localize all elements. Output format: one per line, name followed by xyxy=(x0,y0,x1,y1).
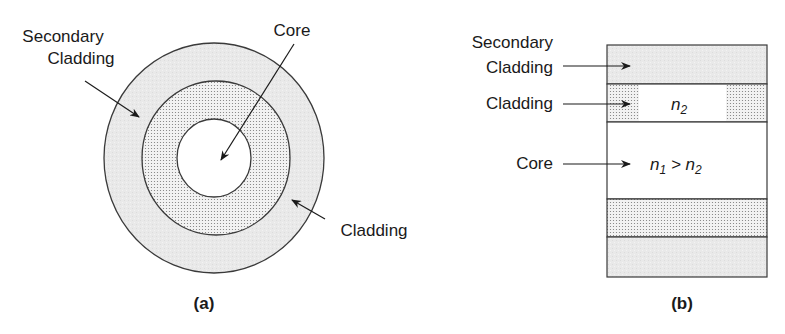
b-cladding-label: Cladding xyxy=(486,94,553,113)
optical-fiber-structure-figure: Secondary Cladding Core Cladding (a) n2 xyxy=(0,0,785,334)
b-secondary-cladding-label-line1: Secondary xyxy=(472,33,554,52)
panel-a-caption: (a) xyxy=(194,294,215,313)
b-core-label: Core xyxy=(516,154,553,173)
core-label: Core xyxy=(274,21,311,40)
core-index-label: n1 > n2 xyxy=(650,155,702,177)
cladding-bottom-band xyxy=(607,199,767,237)
panel-b-longitudinal-section: n2 n1 > n2 Secondary Cladding Cladding C… xyxy=(472,33,767,313)
cladding-top-right-stipple xyxy=(726,85,766,121)
panel-a-cross-section: Secondary Cladding Core Cladding (a) xyxy=(22,21,407,313)
cladding-top-left-stipple xyxy=(608,85,639,121)
b-secondary-cladding-label-line2: Cladding xyxy=(486,58,553,77)
secondary-cladding-bottom-band xyxy=(607,237,767,277)
secondary-cladding-label-line1: Secondary xyxy=(22,27,104,46)
secondary-cladding-label-line2: Cladding xyxy=(47,49,114,68)
panel-b-caption: (b) xyxy=(671,294,693,313)
secondary-cladding-top-band xyxy=(607,45,767,84)
figure-canvas: Secondary Cladding Core Cladding (a) n2 xyxy=(0,0,785,334)
cladding-label: Cladding xyxy=(340,221,407,240)
